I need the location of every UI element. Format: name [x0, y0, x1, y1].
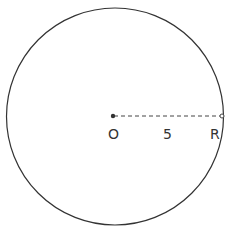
center-point	[111, 114, 115, 118]
circle-diagram: O 5 R	[0, 0, 229, 232]
radius-label: R	[210, 126, 220, 142]
length-label: 5	[163, 126, 172, 142]
center-label: O	[108, 126, 119, 142]
radius-end-point	[220, 114, 224, 118]
